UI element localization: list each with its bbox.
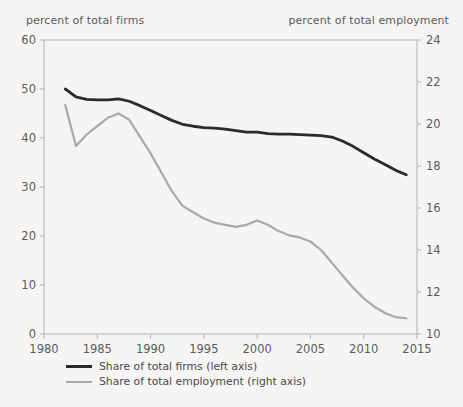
- svg-text:2010: 2010: [349, 342, 378, 356]
- svg-text:18: 18: [426, 159, 441, 173]
- svg-text:1980: 1980: [29, 342, 58, 356]
- svg-text:1990: 1990: [136, 342, 165, 356]
- svg-text:14: 14: [426, 243, 441, 257]
- svg-text:22: 22: [426, 75, 441, 89]
- axes-group: [44, 40, 417, 334]
- tick-marks-group: [40, 40, 421, 339]
- chart-legend: Share of total firms (left axis) Share o…: [66, 359, 306, 389]
- svg-text:60: 60: [21, 33, 36, 47]
- svg-text:20: 20: [426, 117, 441, 131]
- svg-text:10: 10: [21, 278, 36, 292]
- svg-text:30: 30: [21, 180, 36, 194]
- svg-text:50: 50: [21, 82, 36, 96]
- svg-text:20: 20: [21, 229, 36, 243]
- data-series-group: [65, 89, 406, 318]
- svg-text:16: 16: [426, 201, 441, 215]
- chart-container: percent of total firms percent of total …: [0, 0, 463, 407]
- svg-text:0: 0: [29, 327, 36, 341]
- svg-text:2000: 2000: [243, 342, 272, 356]
- svg-text:24: 24: [426, 33, 441, 47]
- legend-item-firms: Share of total firms (left axis): [66, 359, 306, 374]
- legend-item-employment: Share of total employment (right axis): [66, 374, 306, 389]
- data-line-employment: [65, 105, 406, 318]
- chart-plot-area: 0102030405060101214161820222419801985199…: [0, 0, 463, 407]
- svg-text:1985: 1985: [83, 342, 112, 356]
- legend-line-swatch-employment: [66, 381, 92, 383]
- legend-label-employment: Share of total employment (right axis): [99, 375, 306, 388]
- legend-label-firms: Share of total firms (left axis): [99, 360, 257, 373]
- svg-text:1995: 1995: [189, 342, 218, 356]
- svg-text:40: 40: [21, 131, 36, 145]
- data-line-firms: [65, 89, 406, 175]
- svg-text:10: 10: [426, 327, 441, 341]
- svg-text:2005: 2005: [296, 342, 325, 356]
- svg-text:2015: 2015: [402, 342, 431, 356]
- legend-line-swatch-firms: [66, 365, 92, 368]
- svg-text:12: 12: [426, 285, 441, 299]
